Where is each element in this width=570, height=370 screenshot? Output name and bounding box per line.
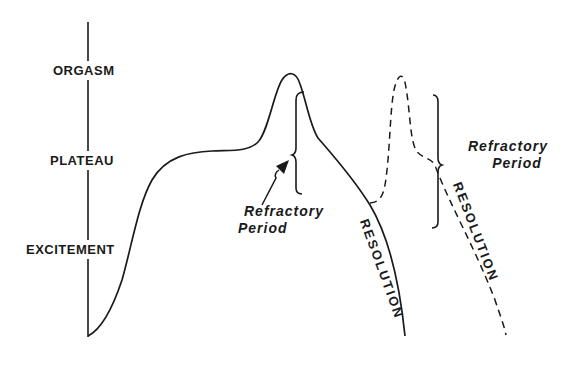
refractory-label-2: Refractory Period xyxy=(452,138,564,172)
refractory-label-2-line1: Refractory xyxy=(452,138,564,155)
refractory-label-1: Refractory Period xyxy=(228,203,340,237)
refractory-label-1-line2: Period xyxy=(228,220,340,237)
arrow-head-icon xyxy=(276,160,289,174)
refractory-bracket-1 xyxy=(292,92,304,194)
refractory-label-2-line2: Period xyxy=(452,155,564,172)
refractory-bracket-2 xyxy=(432,95,442,228)
label-plateau: PLATEAU xyxy=(50,151,114,170)
refractory-arrow xyxy=(262,170,279,205)
response-cycle-diagram xyxy=(0,0,570,370)
refractory-label-1-line1: Refractory xyxy=(228,203,340,220)
label-orgasm: ORGASM xyxy=(53,61,115,80)
label-excitement: EXCITEMENT xyxy=(26,240,115,259)
